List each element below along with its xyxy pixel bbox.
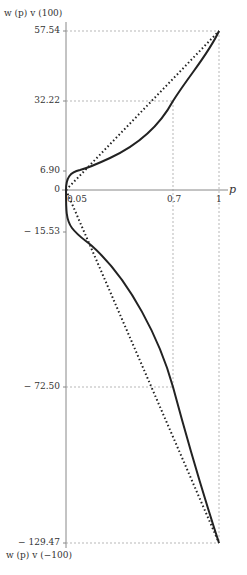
y-tick-neg-129-47: − 129.47 — [4, 537, 60, 547]
y-tick-0: 0 — [4, 184, 60, 194]
y-tick-6-90: 6.90 — [4, 165, 60, 175]
weighted-gain-curve — [66, 31, 219, 190]
y-tick-neg-15-53: − 15.53 — [4, 226, 60, 236]
x-tick-0-05: 0.05 — [67, 194, 87, 204]
chart-canvas — [0, 0, 247, 575]
y-tick-neg-72-50: − 72.50 — [4, 381, 60, 391]
x-tick-0-7: 0.7 — [167, 194, 181, 204]
x-tick-1: 1 — [216, 194, 222, 204]
y-tick-57-54: 57.54 — [4, 25, 60, 35]
y-axis-label-bottom: w (p) v (−100) — [6, 550, 72, 560]
y-axis-label-top: w (p) v (100) — [4, 8, 62, 18]
x-axis-label: p — [229, 183, 236, 196]
y-tick-32-22: 32.22 — [4, 95, 60, 105]
